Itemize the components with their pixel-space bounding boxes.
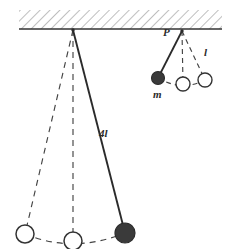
short-bob-equilibrium-open xyxy=(176,77,190,91)
long-pivot-point xyxy=(71,28,74,31)
short-string-vertical-dashed xyxy=(182,31,183,84)
long-bob-equilibrium-open xyxy=(64,232,82,249)
pendulum-short xyxy=(152,29,213,91)
ceiling-support xyxy=(19,10,222,29)
diagram-canvas xyxy=(0,0,236,249)
long-bob-left-open xyxy=(16,225,34,243)
length-label-l: l xyxy=(204,47,207,58)
pivot-label-p: P xyxy=(163,27,170,38)
pendulum-diagram: P l m 4l xyxy=(0,0,236,249)
ceiling-hatch-fill xyxy=(19,10,222,29)
short-bob-right-open xyxy=(198,73,212,87)
mass-label-m: m xyxy=(153,89,162,100)
short-string-solid xyxy=(158,31,182,78)
short-string-right-dashed xyxy=(182,31,205,80)
short-pivot-point xyxy=(180,29,183,32)
pendulum-long xyxy=(16,28,135,249)
long-string-left-dashed xyxy=(25,30,73,234)
long-bob-right-filled xyxy=(115,223,135,243)
short-bob-left-filled xyxy=(152,72,165,85)
length-label-4l: 4l xyxy=(99,128,108,139)
